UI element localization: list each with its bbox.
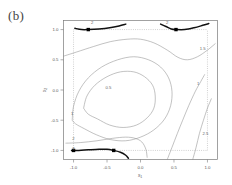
plot-frame — [64, 21, 218, 160]
svg-text:0.5: 0.5 — [105, 85, 111, 90]
data-point-markers — [72, 28, 178, 152]
svg-text:0.0: 0.0 — [53, 88, 60, 93]
svg-text:1.0: 1.0 — [53, 27, 60, 32]
svg-text:1.0: 1.0 — [204, 165, 211, 170]
svg-text:2.5: 2.5 — [203, 131, 209, 136]
svg-text:1: 1 — [71, 111, 74, 116]
highlighted-curves — [72, 24, 209, 159]
svg-text:2: 2 — [72, 136, 75, 141]
contour-lines — [64, 39, 216, 160]
figure-panel: (b) -1.0-0.50.00.51.0-1.0-0.50.00.51.0 0… — [0, 0, 232, 185]
x-axis-label: x1 — [138, 173, 142, 179]
reference-lines — [74, 30, 208, 151]
svg-text:1.5: 1.5 — [200, 46, 206, 51]
contour-plot-svg: -1.0-0.50.00.51.0-1.0-0.50.00.51.0 0.511… — [0, 0, 232, 185]
svg-text:0.5: 0.5 — [53, 57, 60, 62]
svg-text:0.0: 0.0 — [138, 165, 145, 170]
svg-text:0.5: 0.5 — [171, 165, 178, 170]
svg-text:-0.5: -0.5 — [51, 118, 59, 123]
contour-plot: -1.0-0.50.00.51.0-1.0-0.50.00.51.0 0.511… — [0, 0, 232, 185]
svg-text:-0.5: -0.5 — [103, 165, 111, 170]
svg-text:-1.0: -1.0 — [51, 148, 59, 153]
axis-tick-labels: -1.0-0.50.00.51.0-1.0-0.50.00.51.0 — [51, 27, 211, 170]
svg-text:-1.0: -1.0 — [70, 165, 78, 170]
y-axis-label: x2 — [42, 88, 48, 92]
